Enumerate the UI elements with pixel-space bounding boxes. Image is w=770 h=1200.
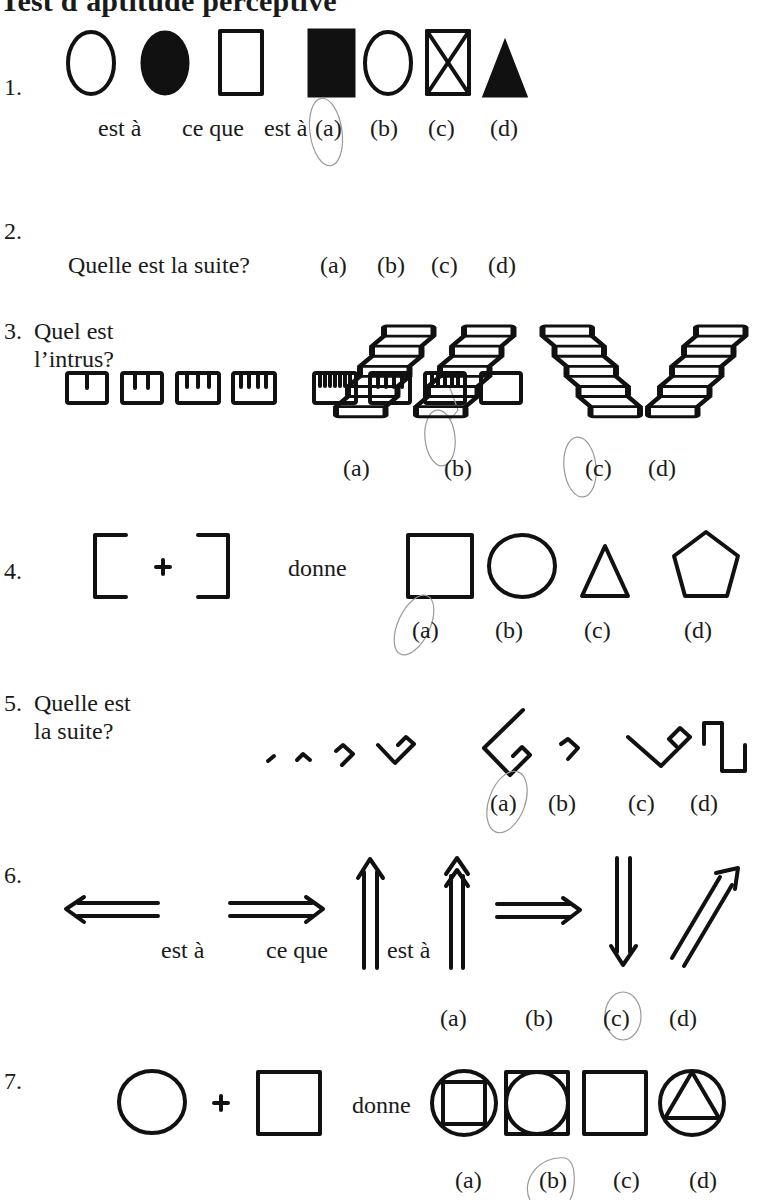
square-icon [258, 1072, 320, 1134]
option-d-circle-with-inscribed-triangle-icon [660, 1071, 724, 1135]
q7-option-a[interactable]: (a) [455, 1167, 482, 1194]
question-7-figures [0, 0, 770, 1200]
q7-option-d[interactable]: (d) [689, 1167, 717, 1194]
option-a-circle-with-inscribed-square-icon [432, 1071, 496, 1135]
q7-option-c[interactable]: (c) [613, 1167, 640, 1194]
q7-text: donne [352, 1092, 411, 1119]
circle-icon [119, 1071, 185, 1133]
option-c-square-icon [584, 1072, 646, 1134]
q7-option-b[interactable]: (b) [539, 1167, 567, 1194]
option-b-square-with-inscribed-circle-icon [506, 1072, 568, 1134]
plus-icon [214, 1096, 228, 1110]
